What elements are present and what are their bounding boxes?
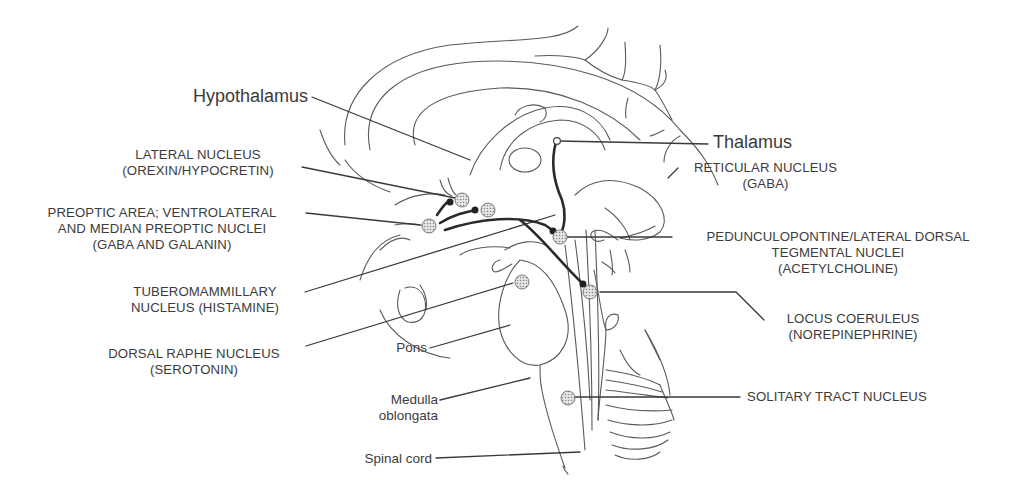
label-thalamus: Thalamus xyxy=(713,132,792,154)
label-tuberomammillary-line2: NUCLEUS (HISTAMINE) xyxy=(110,300,300,316)
label-tuberomammillary-line1: TUBEROMAMMILLARY xyxy=(110,284,300,300)
label-preoptic-line2: AND MEDIAN PREOPTIC NUCLEI xyxy=(18,221,306,237)
leader-reticular xyxy=(668,168,678,178)
terminal-thalamus xyxy=(554,138,561,145)
nucleus-lateral xyxy=(455,193,469,207)
nucleus-dorsal-raphe xyxy=(515,275,529,289)
hypothalamus-outline xyxy=(360,178,545,358)
nucleus-pedunculopontine xyxy=(553,230,567,244)
label-pons: Pons xyxy=(370,340,427,356)
brain-diagram: Hypothalamus LATERAL NUCLEUS (OREXIN/HYP… xyxy=(0,0,1023,489)
nucleus-tuberomammillary xyxy=(481,203,495,217)
label-tuberomammillary: TUBEROMAMMILLARY NUCLEUS (HISTAMINE) xyxy=(110,284,300,316)
label-medulla: Medulla oblongata xyxy=(350,392,438,425)
label-locus-coeruleus: LOCUS COERULEUS (NOREPINEPHRINE) xyxy=(768,311,938,343)
nucleus-preoptic xyxy=(422,219,436,233)
leader-thalamus xyxy=(558,141,708,144)
label-preoptic-line1: PREOPTIC AREA; VENTROLATERAL xyxy=(18,205,306,221)
projection-pathways xyxy=(437,138,587,288)
cortex-outline xyxy=(320,26,718,192)
label-dorsal-raphe-transmitter: (SEROTONIN) xyxy=(84,362,304,378)
pathway-ppt-to-thalamus xyxy=(553,142,564,233)
label-lateral-nucleus-name: LATERAL NUCLEUS xyxy=(88,147,308,163)
nucleus-solitary-tract xyxy=(561,391,575,405)
label-dorsal-raphe: DORSAL RAPHE NUCLEUS (SEROTONIN) xyxy=(84,346,304,378)
label-pedunculopontine-transmitter: (ACETYLCHOLINE) xyxy=(678,261,998,277)
pathway-preoptic-to-tmn xyxy=(440,210,476,223)
leader-pons xyxy=(430,325,510,348)
label-solitary-tract: SOLITARY TRACT NUCLEUS xyxy=(747,389,927,405)
label-spinal-cord: Spinal cord xyxy=(330,451,432,467)
cerebellum-outline xyxy=(606,330,674,459)
terminal-lateral xyxy=(447,199,454,206)
leader-spinal-cord xyxy=(436,452,580,458)
label-dorsal-raphe-name: DORSAL RAPHE NUCLEUS xyxy=(84,346,304,362)
label-medulla-line1: Medulla xyxy=(350,392,438,408)
leader-hypothalamus xyxy=(312,97,470,160)
label-lateral-nucleus-transmitter: (OREXIN/HYPOCRETIN) xyxy=(88,163,308,179)
label-reticular-transmitter: (GABA) xyxy=(678,176,853,192)
label-medulla-line2: oblongata xyxy=(350,408,438,424)
label-pedunculopontine-line1: PEDUNCULOPONTINE/LATERAL DORSAL xyxy=(678,229,998,245)
leader-medulla xyxy=(440,378,530,400)
label-reticular-name: RETICULAR NUCLEUS xyxy=(678,160,853,176)
label-preoptic-area: PREOPTIC AREA; VENTROLATERAL AND MEDIAN … xyxy=(18,205,306,253)
thalamus-outline xyxy=(470,105,680,241)
label-reticular-nucleus: RETICULAR NUCLEUS (GABA) xyxy=(678,160,853,192)
label-preoptic-transmitter: (GABA AND GALANIN) xyxy=(18,237,306,253)
label-lateral-nucleus: LATERAL NUCLEUS (OREXIN/HYPOCRETIN) xyxy=(88,147,308,179)
label-locus-coeruleus-transmitter: (NOREPINEPHRINE) xyxy=(768,327,938,343)
label-pedunculopontine: PEDUNCULOPONTINE/LATERAL DORSAL TEGMENTA… xyxy=(678,229,998,277)
leader-preoptic xyxy=(306,213,420,225)
leader-lateral-nucleus xyxy=(302,167,455,198)
label-pedunculopontine-line2: TEGMENTAL NUCLEI xyxy=(678,245,998,261)
leader-dorsal-raphe xyxy=(306,283,513,346)
label-locus-coeruleus-name: LOCUS COERULEUS xyxy=(768,311,938,327)
leader-locus-coeruleus xyxy=(600,292,764,320)
terminal-tmn xyxy=(472,207,479,214)
label-hypothalamus: Hypothalamus xyxy=(148,86,308,108)
nucleus-locus-coeruleus xyxy=(583,285,597,299)
